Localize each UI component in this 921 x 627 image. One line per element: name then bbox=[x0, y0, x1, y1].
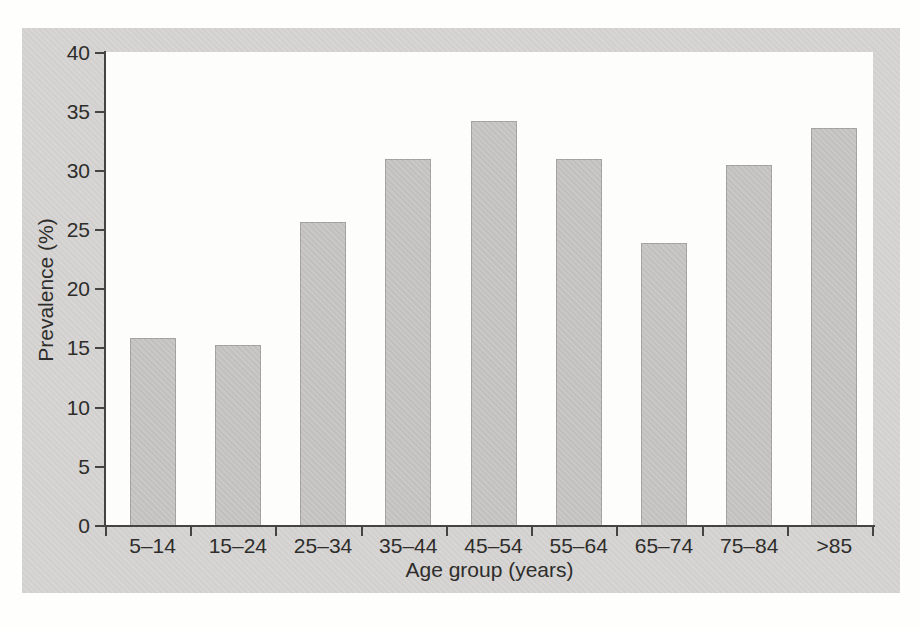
bar bbox=[641, 243, 687, 526]
bar bbox=[811, 128, 857, 526]
bar bbox=[215, 345, 261, 526]
x-tick-label: 65–74 bbox=[619, 534, 709, 558]
x-tick-label: 45–54 bbox=[449, 534, 539, 558]
y-tick-label: 0 bbox=[34, 514, 90, 538]
bar bbox=[300, 222, 346, 526]
x-tick-label: 35–44 bbox=[363, 534, 453, 558]
y-tick bbox=[95, 229, 104, 231]
bar bbox=[385, 159, 431, 526]
y-tick bbox=[95, 111, 104, 113]
y-tick bbox=[95, 347, 104, 349]
x-tick-label: 25–34 bbox=[278, 534, 368, 558]
y-tick bbox=[95, 288, 104, 290]
x-tick-label: >85 bbox=[789, 534, 879, 558]
x-tick-label: 5–14 bbox=[108, 534, 198, 558]
y-tick-label: 5 bbox=[34, 455, 90, 479]
y-tick bbox=[95, 52, 104, 54]
y-axis-title: Prevalence (%) bbox=[34, 218, 58, 362]
x-tick-label: 15–24 bbox=[193, 534, 283, 558]
bar bbox=[556, 159, 602, 526]
y-tick bbox=[95, 407, 104, 409]
y-axis-line bbox=[104, 51, 106, 527]
scanned-page: 05101520253035405–1415–2425–3435–4445–54… bbox=[0, 0, 921, 627]
x-axis-line bbox=[103, 525, 875, 527]
y-tick bbox=[95, 466, 104, 468]
y-tick-label: 30 bbox=[34, 159, 90, 183]
bar bbox=[471, 121, 517, 526]
bar bbox=[130, 338, 176, 526]
x-tick-label: 75–84 bbox=[704, 534, 794, 558]
y-tick bbox=[95, 170, 104, 172]
x-axis-title: Age group (years) bbox=[106, 558, 873, 582]
bar bbox=[726, 165, 772, 526]
x-tick-label: 55–64 bbox=[534, 534, 624, 558]
y-tick-label: 40 bbox=[34, 41, 90, 65]
y-tick-label: 10 bbox=[34, 396, 90, 420]
y-tick-label: 35 bbox=[34, 100, 90, 124]
y-tick bbox=[95, 525, 104, 527]
